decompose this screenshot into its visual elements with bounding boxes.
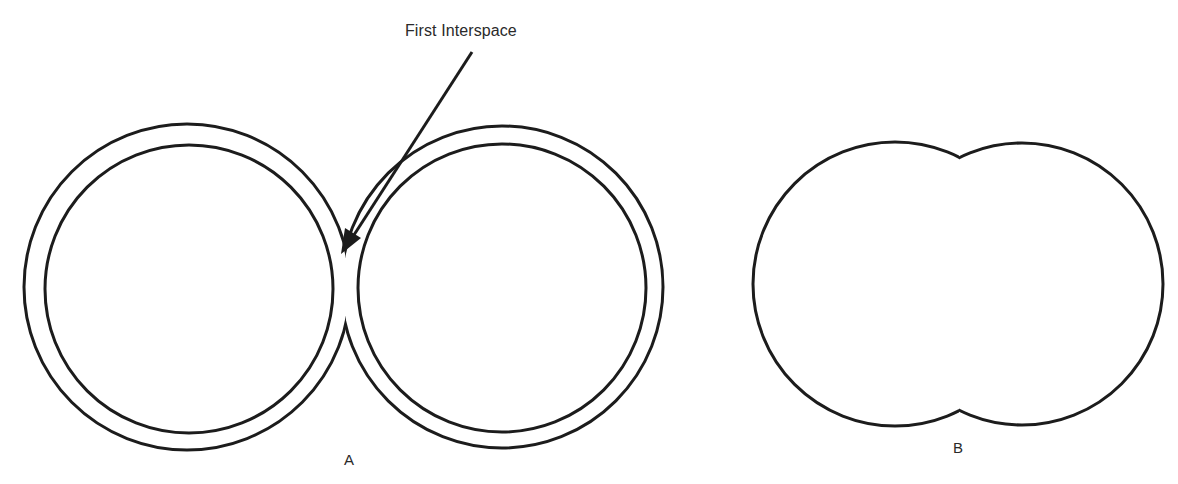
panel-b-label: B — [953, 439, 963, 456]
panel-b — [753, 142, 1163, 426]
arrowhead-icon — [341, 228, 361, 254]
left-outer-wall — [24, 124, 350, 450]
panel-a-label: A — [344, 451, 354, 468]
panel-a — [24, 124, 663, 450]
merged-left-lobe — [753, 142, 1037, 426]
right-outer-wall — [341, 126, 663, 448]
left-inner-wall — [45, 145, 333, 433]
first-interspace-label: First Interspace — [405, 22, 517, 40]
right-inner-wall — [358, 144, 646, 432]
merged-right-lobe — [881, 143, 1163, 425]
diagram-canvas — [0, 0, 1178, 484]
